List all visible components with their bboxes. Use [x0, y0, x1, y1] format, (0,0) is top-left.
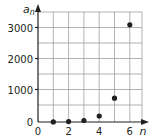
- x-tick-label: 0: [35, 126, 41, 137]
- x-tick-label: 2: [65, 126, 71, 137]
- chart: 3000 2000 1000 0 0 2 4 6 an n: [0, 0, 153, 139]
- x-tick-label: 6: [127, 126, 133, 137]
- point-n6: [127, 22, 132, 27]
- data-points: [51, 22, 133, 124]
- point-n4: [97, 113, 102, 118]
- x-axis-label: n: [140, 125, 147, 138]
- y-tick-label: 0: [27, 117, 33, 128]
- y-tick-label: 1000: [8, 85, 33, 96]
- point-n3: [81, 118, 86, 123]
- x-tick-label: 4: [96, 126, 102, 137]
- y-tick-label: 3000: [8, 23, 33, 34]
- point-n1: [51, 119, 56, 124]
- point-n2: [66, 119, 71, 124]
- y-axis-arrow-icon: [35, 4, 41, 12]
- y-axis-label: an: [23, 3, 35, 17]
- grid: [38, 12, 142, 122]
- y-tick-label: 2000: [8, 54, 33, 65]
- point-n5: [112, 96, 117, 101]
